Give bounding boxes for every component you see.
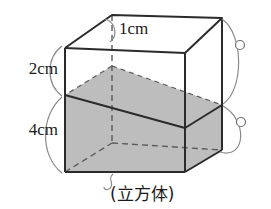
label-2cm: 2cm <box>29 59 58 78</box>
brace-right-upper <box>222 19 239 104</box>
geometry-figure: 1cm 2cm 4cm (立方体) <box>0 0 271 209</box>
brace-right-lower <box>220 106 241 153</box>
cube-caption: (立方体) <box>110 184 174 204</box>
tick-mark-right-upper-icon <box>236 41 245 50</box>
brace-1cm <box>105 19 115 42</box>
cube-diagram-svg: 1cm 2cm 4cm (立方体) <box>0 0 271 209</box>
label-1cm: 1cm <box>119 19 148 38</box>
label-4cm: 4cm <box>29 120 58 139</box>
tick-mark-right-lower-icon <box>237 118 246 127</box>
